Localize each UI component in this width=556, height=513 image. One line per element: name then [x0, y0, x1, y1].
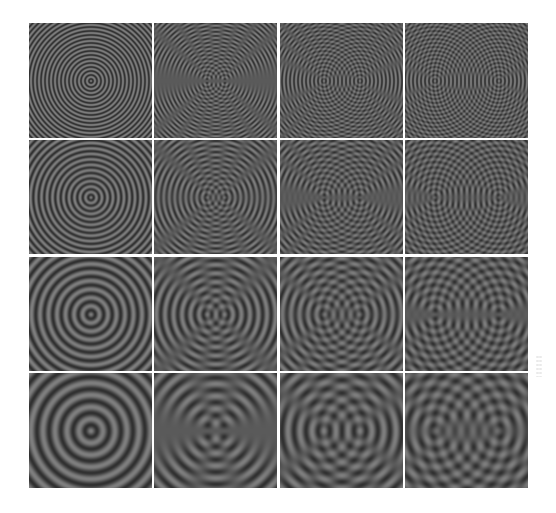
pattern-panel-r2-c2 — [154, 140, 277, 255]
scan-artifact — [536, 355, 542, 377]
interference-image — [154, 257, 277, 372]
interference-image — [280, 257, 403, 372]
pattern-panel-r3-c2 — [154, 257, 277, 372]
pattern-panel-r2-c3 — [280, 140, 403, 255]
interference-image — [405, 140, 528, 255]
interference-image — [405, 257, 528, 372]
interference-image — [154, 23, 277, 138]
interference-image — [280, 140, 403, 255]
interference-image — [280, 23, 403, 138]
pattern-panel-r4-c1 — [29, 373, 152, 488]
pattern-panel-r1-c1 — [29, 23, 152, 138]
interference-pattern-grid — [29, 23, 529, 488]
interference-image — [405, 23, 528, 138]
interference-image — [154, 373, 277, 488]
pattern-panel-r4-c4 — [405, 373, 528, 488]
pattern-panel-r3-c3 — [280, 257, 403, 372]
pattern-panel-r1-c4 — [405, 23, 528, 138]
pattern-panel-r3-c4 — [405, 257, 528, 372]
interference-image — [154, 140, 277, 255]
pattern-panel-r3-c1 — [29, 257, 152, 372]
interference-image — [29, 373, 152, 488]
interference-image — [29, 257, 152, 372]
interference-image — [405, 373, 528, 488]
pattern-panel-r4-c3 — [280, 373, 403, 488]
interference-image — [29, 23, 152, 138]
pattern-panel-r1-c2 — [154, 23, 277, 138]
pattern-panel-r1-c3 — [280, 23, 403, 138]
pattern-panel-r4-c2 — [154, 373, 277, 488]
interference-image — [280, 373, 403, 488]
pattern-panel-r2-c1 — [29, 140, 152, 255]
interference-image — [29, 140, 152, 255]
pattern-panel-r2-c4 — [405, 140, 528, 255]
